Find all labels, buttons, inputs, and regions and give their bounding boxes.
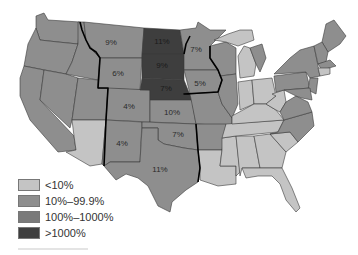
legend-swatch-100-1000 <box>18 211 40 223</box>
label-nebraska: 7% <box>160 84 172 93</box>
legend-swatch-lt10 <box>18 179 40 191</box>
legend-label-100-1000: 100%–1000% <box>45 211 114 223</box>
label-colorado: 4% <box>123 102 135 111</box>
legend-label-lt10: <10% <box>45 179 73 191</box>
label-kansas: 10% <box>164 108 180 117</box>
state-arkansas <box>196 124 226 150</box>
northeast-region <box>274 20 346 100</box>
label-new-mexico: 4% <box>116 139 128 148</box>
legend-item-gt1000: >1000% <box>18 225 114 241</box>
legend-item-100-1000: 100%–1000% <box>18 209 114 225</box>
label-texas: 11% <box>152 165 167 174</box>
footer-mark <box>18 248 88 250</box>
legend-label-gt1000: >1000% <box>45 227 86 239</box>
label-iowa: 5% <box>194 79 206 88</box>
label-oklahoma: 7% <box>172 130 184 139</box>
legend-swatch-10-99 <box>18 195 40 207</box>
label-north-dakota: 11% <box>154 37 169 46</box>
state-maine <box>322 20 346 52</box>
legend-item-lt10: <10% <box>18 177 114 193</box>
legend: <10% 10%–99.9% 100%–1000% >1000% <box>18 177 114 241</box>
legend-swatch-gt1000 <box>18 227 40 239</box>
label-south-dakota: 9% <box>156 61 168 70</box>
legend-item-10-99: 10%–99.9% <box>18 193 114 209</box>
label-minnesota: 7% <box>190 45 202 54</box>
state-connecticut <box>318 68 330 76</box>
label-montana: 9% <box>105 38 117 47</box>
legend-label-10-99: 10%–99.9% <box>45 195 104 207</box>
state-florida <box>242 168 300 212</box>
label-wyoming: 6% <box>112 69 124 78</box>
state-washington <box>36 13 80 44</box>
